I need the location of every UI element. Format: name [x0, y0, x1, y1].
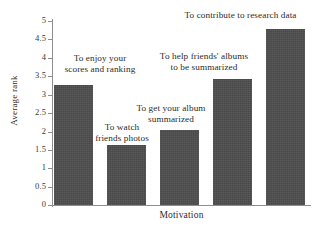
bar-label-0: To enjoy your scores and ranking [48, 53, 152, 74]
bar-0[interactable] [54, 85, 93, 205]
y-tick-label-text: 5 [2, 16, 46, 25]
y-tick-label-text: 4.5 [2, 34, 46, 43]
y-tick-label-2: 2 [0, 127, 46, 137]
y-tick-label-1: 1 [0, 163, 46, 173]
y-tick-label-text: 4 [2, 53, 46, 62]
x-axis-title: Motivation [52, 210, 311, 221]
bar-label-3: To help friends' albums to be summarized [148, 51, 260, 72]
y-tick-label-text: 0.5 [2, 182, 46, 191]
y-tick-label-text: 2.5 [2, 108, 46, 117]
x-axis-line [52, 205, 311, 206]
bar-label-4: To contribute to research data [167, 10, 314, 21]
y-tick-label-0-5: 0.5 [0, 182, 46, 192]
y-tick-label-5: 5 [0, 16, 46, 26]
y-tick-label-text: 1 [2, 163, 46, 172]
bar-chart: Average rank 5 4.5 4 3.5 3 2.5 2 1.5 1 0… [0, 0, 314, 235]
bar-label-2: To get your album summarized [123, 103, 219, 124]
bar-4[interactable] [266, 29, 305, 205]
y-tick-label-0: 0 [0, 200, 46, 210]
y-tick-label-text: 2 [2, 127, 46, 136]
y-tick-label-4: 4 [0, 53, 46, 63]
bar-2[interactable] [160, 130, 199, 205]
y-tick-label-text: 3 [2, 90, 46, 99]
y-tick-label-1-5: 1.5 [0, 145, 46, 155]
y-tick-label-3: 3 [0, 90, 46, 100]
bar-3[interactable] [213, 79, 252, 205]
y-tick-label-text: 0 [2, 200, 46, 209]
y-tick-label-text: 1.5 [2, 145, 46, 154]
y-tick-label-text: 3.5 [2, 71, 46, 80]
y-tick-label-2-5: 2.5 [0, 108, 46, 118]
y-tick-label-4-5: 4.5 [0, 34, 46, 44]
y-tick-label-3-5: 3.5 [0, 71, 46, 81]
bar-1[interactable] [107, 145, 146, 205]
y-tick-mark [48, 205, 53, 206]
bar-label-1: To watch friends photos [79, 122, 165, 143]
